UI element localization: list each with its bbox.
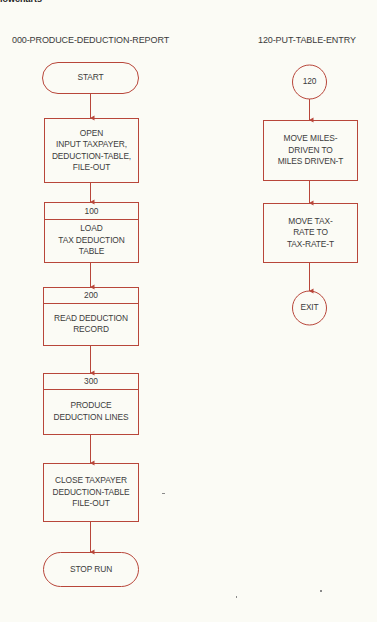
scan-speck bbox=[162, 493, 165, 494]
entry-connector-label: 120 bbox=[292, 65, 327, 99]
move-tax-label: MOVE TAX- RATE TO TAX-RATE-T bbox=[263, 203, 358, 263]
exit-label: EXIT bbox=[292, 291, 327, 325]
stop-run-label: STOP RUN bbox=[43, 552, 139, 587]
process-100-id: 100 bbox=[44, 202, 139, 219]
process-200-label: READ DEDUCTION RECORD bbox=[43, 303, 139, 345]
open-files-label: OPEN INPUT TAXPAYER, DEDUCTION-TABLE, FI… bbox=[44, 118, 139, 183]
start-label: START bbox=[42, 62, 139, 94]
process-100-label: LOAD TAX DEDUCTION TABLE bbox=[44, 219, 139, 262]
process-200-id: 200 bbox=[43, 287, 139, 303]
scan-speck bbox=[236, 596, 237, 598]
scan-speck bbox=[320, 590, 322, 592]
process-300-id: 300 bbox=[43, 373, 139, 389]
move-miles-label: MOVE MILES- DRIVEN TO MILES DRIVEN-T bbox=[263, 120, 358, 181]
close-files-label: CLOSE TAXPAYER DEDUCTION-TABLE FILE-OUT bbox=[43, 463, 139, 522]
process-300-label: PRODUCE DEDUCTION LINES bbox=[43, 389, 139, 434]
